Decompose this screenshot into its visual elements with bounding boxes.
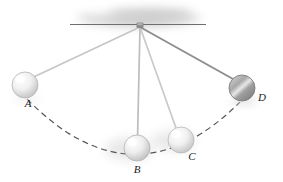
- pivot-block: [137, 23, 144, 29]
- pendulum-diagram: A B C D: [0, 0, 283, 182]
- string-to-B: [138, 27, 140, 135]
- ball-B[interactable]: [124, 135, 150, 161]
- ball-label-B: B: [134, 163, 141, 175]
- ball-label-C: C: [188, 150, 196, 162]
- ball-label-A: A: [24, 97, 32, 109]
- ball-label-D: D: [257, 91, 266, 103]
- ball-D[interactable]: [229, 75, 257, 105]
- string-to-D: [140, 27, 233, 79]
- string-to-A: [32, 27, 141, 78]
- string-to-C: [140, 27, 176, 128]
- string-group: [32, 27, 234, 135]
